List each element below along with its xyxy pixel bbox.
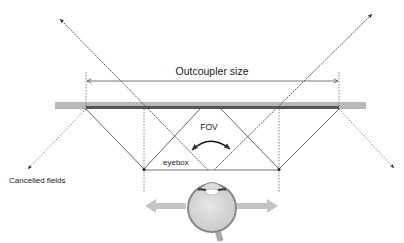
outcoupler-size-label: Outcoupler size <box>176 65 249 77</box>
right-arrow-icon <box>234 199 278 213</box>
fov-arc <box>192 141 230 150</box>
left-arrow-icon <box>145 199 186 213</box>
outcoupler-grating <box>86 106 339 109</box>
field-rays-extreme <box>60 14 372 170</box>
eyebox-label: eyebox <box>163 158 189 167</box>
fov-label: FOV <box>200 122 218 132</box>
cancelled-fields-label: Cancelled fields <box>9 176 65 185</box>
eyebox-left-point <box>142 168 145 171</box>
outcoupler-diagram: Outcoupler size eyebox Cancelled fields … <box>0 0 404 243</box>
cancelled-field-rays <box>28 109 394 169</box>
eyebox-right-point <box>277 168 280 171</box>
field-rays <box>86 109 339 169</box>
eye-icon <box>188 183 236 242</box>
